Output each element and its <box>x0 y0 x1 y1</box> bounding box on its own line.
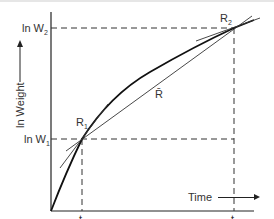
growth-diagram: ln W2 ln W1 ln Weight t1 t2 R1 R2 R̄ <box>0 0 274 219</box>
t2-label: t2 <box>231 213 238 219</box>
r2-label: R2 <box>220 12 232 26</box>
ln-w1-label: ln W1 <box>24 133 50 147</box>
tangent-r1 <box>60 104 108 168</box>
ln-w2-label: ln W2 <box>22 22 48 36</box>
right-arrow-icon <box>254 194 260 200</box>
t1-label: t1 <box>79 213 86 219</box>
up-arrow-icon <box>17 40 23 47</box>
mean-chord <box>66 16 252 151</box>
x-axis-arrow-shaft <box>218 197 254 198</box>
x-axis-title-group: Time <box>188 190 260 204</box>
mean-rate-label: R̄ <box>155 88 163 100</box>
y-axis-title: ln Weight <box>14 82 26 128</box>
x-axis-title-text: Time <box>188 191 212 203</box>
r1-label: R1 <box>76 116 88 130</box>
